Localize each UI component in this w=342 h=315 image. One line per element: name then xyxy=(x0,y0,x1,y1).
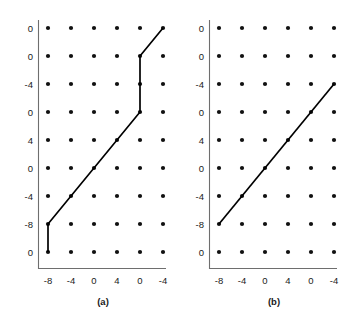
y-tick-label: -8 xyxy=(196,219,204,230)
y-tick-label: 0 xyxy=(28,51,33,62)
x-tick-label: 4 xyxy=(285,275,290,286)
y-tick-label: 0 xyxy=(28,247,33,258)
y-tick-label: 0 xyxy=(199,247,204,258)
y-axis-tick-labels-a: 0 0 -4 0 4 0 -4 -8 0 xyxy=(25,23,33,258)
y-tick-label: -4 xyxy=(196,79,204,90)
lattice-dots-b xyxy=(217,26,336,254)
y-tick-label: 4 xyxy=(199,135,204,146)
y-tick-label: -4 xyxy=(25,79,33,90)
y-tick-label: 0 xyxy=(199,107,204,118)
panel-caption-b: (b) xyxy=(268,296,280,307)
x-tick-label: -4 xyxy=(330,275,338,286)
x-tick-label: 0 xyxy=(308,275,313,286)
chart-svg-a: 0 0 -4 0 4 0 -4 -8 0 xyxy=(0,0,171,315)
y-tick-label: 0 xyxy=(199,23,204,34)
y-tick-label: 0 xyxy=(28,107,33,118)
panel-caption-a: (a) xyxy=(97,296,109,307)
y-tick-label: 4 xyxy=(28,135,33,146)
chart-panel-a: 0 0 -4 0 4 0 -4 -8 0 xyxy=(0,0,171,315)
y-tick-label: 0 xyxy=(199,163,204,174)
chart-svg-b: 0 0 -4 0 4 0 -4 -8 0 xyxy=(171,0,342,315)
x-tick-label: -8 xyxy=(215,275,223,286)
y-tick-label: -4 xyxy=(196,191,204,202)
x-tick-label: -8 xyxy=(44,275,52,286)
x-tick-label: 0 xyxy=(262,275,267,286)
lattice-dots-a xyxy=(46,26,165,254)
x-tick-label: 0 xyxy=(91,275,96,286)
y-tick-label: 0 xyxy=(28,23,33,34)
x-tick-label: -4 xyxy=(67,275,75,286)
x-tick-label: 0 xyxy=(137,275,142,286)
x-tick-label: -4 xyxy=(159,275,167,286)
axis-lines-a xyxy=(39,20,167,269)
y-tick-label: -8 xyxy=(25,219,33,230)
axis-lines-b xyxy=(210,20,338,269)
x-tick-label: 4 xyxy=(114,275,119,286)
chart-panel-b: 0 0 -4 0 4 0 -4 -8 0 xyxy=(171,0,342,315)
y-tick-label: 0 xyxy=(28,163,33,174)
data-line-a xyxy=(48,28,163,252)
y-tick-label: -4 xyxy=(25,191,33,202)
x-axis-tick-labels-a: -8 -4 0 4 0 -4 xyxy=(44,275,167,286)
figure-container: 0 0 -4 0 4 0 -4 -8 0 xyxy=(0,0,342,315)
x-tick-label: -4 xyxy=(238,275,246,286)
y-tick-label: 0 xyxy=(199,51,204,62)
y-axis-tick-labels-b: 0 0 -4 0 4 0 -4 -8 0 xyxy=(196,23,204,258)
x-axis-tick-labels-b: -8 -4 0 4 0 -4 xyxy=(215,275,338,286)
data-line-b xyxy=(219,84,334,224)
